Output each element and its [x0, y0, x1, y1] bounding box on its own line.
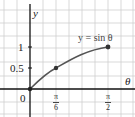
- x-tick-label-pi2: π 2: [105, 93, 111, 112]
- pi6-numerator: π: [54, 93, 58, 101]
- pi2-denominator: 2: [106, 104, 110, 112]
- y-tick-label-one: 1: [18, 42, 24, 53]
- point-pi2: [106, 45, 111, 50]
- curve-label: y = sin θ: [78, 33, 113, 43]
- x-axis-label: θ: [125, 76, 130, 87]
- pi6-denominator: 6: [54, 104, 58, 112]
- origin-label: 0: [20, 93, 26, 104]
- pi2-numerator: π: [106, 93, 110, 101]
- y-axis-label: y: [33, 8, 38, 19]
- point-origin: [28, 87, 32, 91]
- y-tick-label-half: 0.5: [10, 63, 24, 74]
- x-tick-label-pi6: π 6: [53, 93, 59, 112]
- point-pi6: [54, 66, 58, 70]
